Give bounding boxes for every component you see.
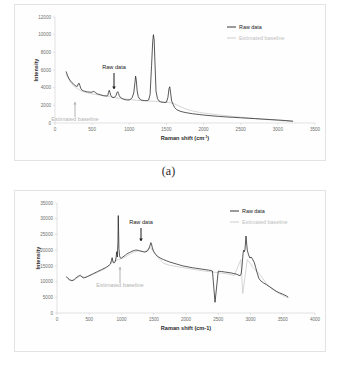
y-tick-label: 2000 <box>41 103 52 108</box>
y-tick-label: 35000 <box>40 201 53 206</box>
y-tick-label: 10000 <box>38 32 51 37</box>
x-axis-title: Raman shift (cm-1) <box>161 325 211 331</box>
annotation-label-raw-data: Raw data <box>102 64 127 70</box>
x-tick-label: 2000 <box>198 127 209 132</box>
x-tick-label: 1500 <box>149 317 160 322</box>
annotation-label-raw-data: Raw data <box>129 219 154 225</box>
subfigure-caption-a: (a) <box>0 164 337 179</box>
x-tick-label: 500 <box>88 127 96 132</box>
y-tick-label: 10000 <box>40 279 53 284</box>
figure-panel-b: 0500010000150002000025000300003500005001… <box>0 186 337 356</box>
y-tick-label: 20000 <box>40 248 53 253</box>
annotation-arrow-head-raw-data <box>112 87 116 89</box>
x-tick-label: 1000 <box>124 127 135 132</box>
chart-container-a: 0200040006000800010000120000500100015002… <box>14 4 326 161</box>
raman-spectrum-chart-a: 0200040006000800010000120000500100015002… <box>15 5 325 160</box>
raman-spectrum-chart-b: 0500010000150002000025000300003500005001… <box>15 191 325 351</box>
legend-label: Estimated baseline <box>242 219 288 225</box>
y-tick-label: 12000 <box>38 15 51 20</box>
x-tick-label: 3500 <box>310 127 321 132</box>
y-tick-label: 0 <box>50 311 53 316</box>
y-tick-label: 8000 <box>41 50 52 55</box>
estimated-baseline-line <box>67 248 288 298</box>
x-tick-label: 3000 <box>245 317 256 322</box>
x-tick-label: 500 <box>85 317 93 322</box>
y-tick-label: 5000 <box>43 295 54 300</box>
x-tick-label: 1000 <box>116 317 127 322</box>
annotation-arrow-head-estimated-baseline <box>73 102 76 104</box>
y-tick-label: 4000 <box>41 85 52 90</box>
x-tick-label: 1500 <box>161 127 172 132</box>
raw-data-line <box>66 35 293 121</box>
annotation-arrow-head-raw-data <box>139 239 143 241</box>
chart-container-b: 0500010000150002000025000300003500005001… <box>14 190 326 352</box>
y-tick-label: 15000 <box>40 264 53 269</box>
x-axis-title-tail: ) <box>207 135 209 141</box>
legend-label: Estimated baseline <box>239 35 285 41</box>
y-axis-title: Intensity <box>35 246 41 270</box>
x-tick-label: 2500 <box>236 127 247 132</box>
x-axis-title: Raman shift (cm-1) <box>161 135 210 141</box>
x-tick-label: 2000 <box>181 317 192 322</box>
y-tick-label: 6000 <box>41 68 52 73</box>
x-tick-label: 0 <box>54 127 57 132</box>
legend-label: Raw data <box>242 208 265 214</box>
legend-label: Raw data <box>239 24 262 30</box>
x-tick-label: 3500 <box>278 317 289 322</box>
annotation-arrow-head-estimated-baseline <box>118 267 121 269</box>
y-tick-label: 25000 <box>40 232 53 237</box>
raw-data-line <box>67 216 288 303</box>
x-tick-label: 4000 <box>310 317 321 322</box>
x-tick-label: 2500 <box>213 317 224 322</box>
figure-panel-a: 0200040006000800010000120000500100015002… <box>0 0 337 165</box>
y-tick-label: 30000 <box>40 216 53 221</box>
y-axis-title: Intensity <box>33 58 39 82</box>
estimated-baseline-line <box>66 74 293 121</box>
x-tick-label: 0 <box>56 317 59 322</box>
x-tick-label: 3000 <box>273 127 284 132</box>
